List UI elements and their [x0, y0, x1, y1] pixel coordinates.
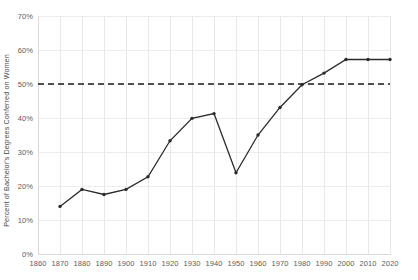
- data-point: [102, 193, 105, 196]
- data-point: [80, 188, 83, 191]
- data-point: [322, 71, 325, 74]
- data-point: [124, 188, 127, 191]
- data-point: [212, 112, 215, 115]
- data-point: [388, 58, 391, 61]
- data-point: [256, 133, 259, 136]
- data-point: [58, 205, 61, 208]
- data-point: [190, 117, 193, 120]
- series-layer: [0, 0, 418, 280]
- data-point: [146, 175, 149, 178]
- data-point: [300, 83, 303, 86]
- data-point: [366, 58, 369, 61]
- series-line: [60, 60, 390, 207]
- data-point: [168, 139, 171, 142]
- data-point: [344, 58, 347, 61]
- chart-container: Percent of Bachelor's Degrees Conferred …: [0, 0, 418, 280]
- data-point: [234, 171, 237, 174]
- data-point: [278, 106, 281, 109]
